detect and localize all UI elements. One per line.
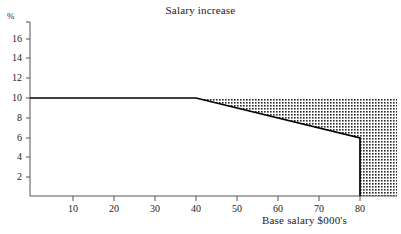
y-tick-label: 4 <box>17 151 22 162</box>
x-tick-label: 80 <box>355 203 365 214</box>
shaded-region <box>30 22 397 196</box>
x-tick-label: 20 <box>109 203 119 214</box>
x-tick-label: 50 <box>232 203 242 214</box>
y-axis-ticks <box>26 22 30 177</box>
x-axis-ticks <box>73 196 360 201</box>
y-tick-label: 2 <box>17 171 22 182</box>
y-tick-label: 12 <box>12 72 22 83</box>
x-tick-label: 10 <box>68 203 78 214</box>
plot-area: 16 14 12 10 8 6 4 2 10 20 30 40 50 60 70… <box>0 0 401 234</box>
y-tick-label: 8 <box>17 112 22 123</box>
chart-figure: Salary increase % Base salary $000's <box>0 0 401 234</box>
x-tick-label: 30 <box>150 203 160 214</box>
y-tick-label: 14 <box>12 52 22 63</box>
y-tick-label: 10 <box>12 92 22 103</box>
x-tick-label: 70 <box>314 203 324 214</box>
y-tick-label: 6 <box>17 132 22 143</box>
x-tick-label: 60 <box>273 203 283 214</box>
x-tick-label: 40 <box>191 203 201 214</box>
y-tick-label: 16 <box>12 33 22 44</box>
